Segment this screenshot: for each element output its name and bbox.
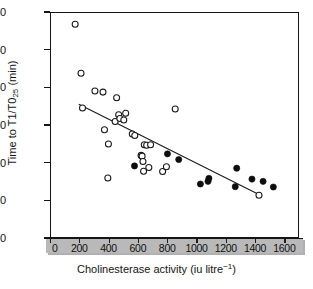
data-point-open bbox=[105, 175, 111, 181]
x-tick-label: 1600 bbox=[273, 243, 295, 254]
data-point-open bbox=[114, 95, 120, 101]
trendline-group bbox=[79, 104, 262, 196]
x-tick-label: 600 bbox=[130, 243, 147, 254]
data-point-filled bbox=[176, 156, 182, 162]
data-point-filled bbox=[260, 178, 266, 184]
data-point-open bbox=[72, 21, 78, 27]
x-tick-label: 400 bbox=[100, 243, 117, 254]
data-point-filled bbox=[164, 151, 170, 157]
data-point-open bbox=[140, 158, 146, 164]
y-axis-title-pre: Time to T1/T0 bbox=[6, 98, 18, 166]
data-point-open bbox=[148, 142, 154, 148]
x-tick-label: 800 bbox=[159, 243, 176, 254]
data-point-filled bbox=[249, 176, 255, 182]
data-point-open bbox=[79, 105, 85, 111]
data-point-filled bbox=[234, 165, 240, 171]
x-tick-mark bbox=[50, 239, 51, 243]
x-axis-title-superscript: −1 bbox=[223, 262, 232, 271]
y-tick-label: 0 bbox=[0, 232, 6, 244]
data-point-open bbox=[141, 168, 147, 174]
x-axis-title-main: Cholinesterase activity (iu litre bbox=[77, 263, 223, 275]
data-point-open bbox=[78, 70, 84, 76]
x-tick-label: 1200 bbox=[215, 243, 237, 254]
data-points-group bbox=[72, 21, 276, 198]
trendline bbox=[79, 104, 262, 196]
data-point-filled bbox=[270, 184, 276, 190]
y-axis-title-post: (min) bbox=[6, 61, 18, 89]
data-point-open bbox=[172, 106, 178, 112]
data-point-open bbox=[123, 110, 129, 116]
x-tick-label: 0 bbox=[52, 243, 58, 254]
data-point-open bbox=[146, 164, 152, 170]
data-point-open bbox=[101, 127, 107, 133]
x-axis-band: 02004006008001000120014001600 bbox=[46, 238, 303, 253]
data-point-filled bbox=[197, 181, 203, 187]
figure-scatter-plot: 0102030405060 Time to T1/T025 (min) 0200… bbox=[0, 0, 313, 289]
plot-area bbox=[50, 12, 299, 238]
x-axis-title: Cholinesterase activity (iu litre−1) bbox=[0, 262, 313, 275]
data-point-open bbox=[132, 132, 138, 138]
data-point-open bbox=[163, 164, 169, 170]
data-point-open bbox=[105, 141, 111, 147]
y-axis-title-subscript: 25 bbox=[11, 89, 20, 98]
x-tick-label: 1000 bbox=[185, 243, 207, 254]
data-point-open bbox=[92, 88, 98, 94]
x-axis-title-close: ) bbox=[232, 263, 236, 275]
x-tick-label: 1400 bbox=[244, 243, 266, 254]
data-point-open bbox=[121, 117, 127, 123]
data-point-filled bbox=[206, 175, 212, 181]
x-tick-label: 200 bbox=[71, 243, 88, 254]
plot-canvas bbox=[51, 13, 300, 239]
data-point-filled bbox=[131, 163, 137, 169]
y-axis-title: Time to T1/T025 (min) bbox=[6, 13, 20, 213]
data-point-filled bbox=[232, 184, 238, 190]
data-point-open bbox=[100, 89, 106, 95]
data-point-open bbox=[256, 192, 262, 198]
